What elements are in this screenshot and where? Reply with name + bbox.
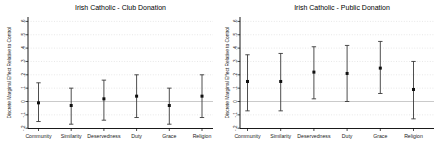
y-tick-label: .6 [233, 19, 238, 23]
y-tick-label: -.2 [21, 125, 26, 131]
x-tick-label: Grace [162, 133, 176, 139]
y-tick-label: .4 [233, 46, 238, 50]
estimate-marker [135, 95, 138, 98]
estimate-marker [70, 104, 73, 107]
estimate-marker [246, 80, 249, 83]
panel-club-donation: -.2-.10.1.2.3.4.5.6CommunitySimilarityDe… [0, 0, 219, 150]
estimate-marker [201, 95, 204, 98]
y-tick-label: .6 [21, 19, 26, 23]
y-tick-label: -.2 [233, 125, 238, 131]
y-axis-title: Discrete Marginal Effect Relative to Con… [225, 27, 230, 119]
x-tick-label: Community [25, 133, 52, 139]
y-tick-label: .3 [21, 59, 26, 63]
y-tick-label: .2 [21, 72, 26, 76]
y-tick-label: 0 [233, 100, 238, 103]
chart-title: Irish Catholic - Club Donation [75, 4, 166, 11]
y-tick-label: -.1 [21, 112, 26, 118]
y-tick-label: .5 [21, 32, 26, 36]
x-tick-label: Similarity [61, 133, 82, 139]
x-tick-label: Duty [342, 133, 353, 139]
estimate-marker [346, 72, 349, 75]
y-axis-title: Discrete Marginal Effect Relative to Con… [7, 27, 12, 119]
estimate-marker [102, 97, 105, 100]
chart-title: Irish Catholic - Public Donation [294, 4, 390, 11]
estimate-marker [168, 104, 171, 107]
estimate-marker [412, 88, 415, 91]
panel-public-donation: -.2-.10.1.2.3.4.5.6CommunitySimilarityDe… [219, 0, 439, 150]
y-tick-label: .4 [21, 46, 26, 50]
x-tick-label: Religion [193, 133, 212, 139]
public-donation-errorbar-plot: -.2-.10.1.2.3.4.5.6CommunitySimilarityDe… [219, 0, 439, 150]
x-tick-label: Deservedness [87, 133, 121, 139]
y-tick-label: .5 [233, 32, 238, 36]
x-tick-label: Deservedness [297, 133, 331, 139]
y-tick-label: 0 [21, 100, 26, 103]
figure-canvas: -.2-.10.1.2.3.4.5.6CommunitySimilarityDe… [0, 0, 439, 150]
y-tick-label: .1 [21, 86, 26, 90]
y-tick-label: .2 [233, 72, 238, 76]
y-tick-label: .1 [233, 86, 238, 90]
y-tick-label: -.1 [233, 112, 238, 118]
estimate-marker [312, 71, 315, 74]
x-tick-label: Community [234, 133, 261, 139]
estimate-marker [379, 67, 382, 70]
club-donation-errorbar-plot: -.2-.10.1.2.3.4.5.6CommunitySimilarityDe… [0, 0, 219, 150]
estimate-marker [279, 80, 282, 83]
x-tick-label: Similarity [270, 133, 291, 139]
x-tick-label: Grace [373, 133, 387, 139]
x-tick-label: Religion [404, 133, 423, 139]
y-tick-label: .3 [233, 59, 238, 63]
x-tick-label: Duty [131, 133, 142, 139]
estimate-marker [37, 101, 40, 104]
